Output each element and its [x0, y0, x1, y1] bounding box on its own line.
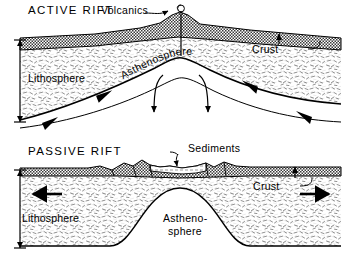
- panel-title-passive-rift: PASSIVE RIFT: [28, 145, 122, 157]
- label-asthenosphere-passive-line1: Astheno-: [163, 212, 208, 224]
- label-crust-active: Crust: [252, 43, 279, 55]
- label-lithosphere-active: Lithosphere: [28, 72, 85, 84]
- rift-diagram-svg: ACTIVE RIFT Volcanics Crust Lithosphere …: [0, 0, 361, 259]
- label-volcanics: Volcanics: [101, 4, 148, 16]
- label-sediments: Sediments: [188, 142, 240, 154]
- label-lithosphere-passive: Lithosphere: [22, 212, 79, 224]
- figure-canvas: ACTIVE RIFT Volcanics Crust Lithosphere …: [0, 0, 361, 259]
- label-crust-passive: Crust: [253, 180, 280, 192]
- label-asthenosphere-passive-line2: sphere: [168, 225, 202, 237]
